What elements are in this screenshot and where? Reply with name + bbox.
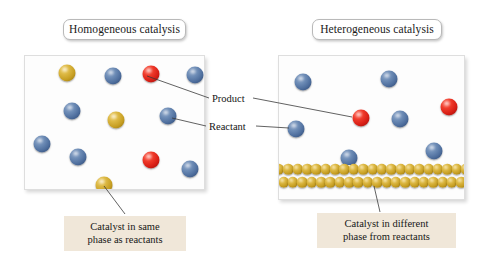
catalyst-row-top — [279, 165, 464, 183]
caption-homogeneous-line1: Catalyst in same — [71, 220, 179, 233]
caption-homogeneous: Catalyst in same phase as reactants — [64, 216, 186, 251]
reactant-sphere — [105, 68, 122, 85]
product-sphere — [441, 99, 458, 116]
reactant-sphere — [70, 149, 87, 166]
panel-title-heterogeneous: Heterogeneous catalysis — [312, 19, 442, 40]
reactant-sphere — [187, 67, 204, 84]
caption-heterogeneous-line2: phase from reactants — [324, 230, 449, 243]
reactant-sphere — [64, 103, 81, 120]
reactant-sphere — [381, 71, 398, 88]
leader-label-product: Product — [212, 94, 245, 105]
reactant-sphere — [426, 143, 443, 160]
catalyst-sphere — [96, 177, 113, 191]
reactant-sphere — [34, 136, 51, 153]
leader-line-undefined — [104, 186, 125, 214]
caption-homogeneous-line2: phase as reactants — [71, 233, 179, 246]
product-sphere — [143, 66, 160, 83]
catalyst-sphere — [108, 112, 125, 129]
reactant-sphere — [392, 111, 409, 128]
heterogeneous-reaction-box — [278, 55, 465, 200]
catalyst-sphere — [59, 65, 76, 82]
product-sphere — [353, 110, 370, 127]
figure-canvas: Homogeneous catalysis Heterogeneous cata… — [0, 0, 484, 263]
homogeneous-reaction-box — [24, 55, 205, 190]
caption-heterogeneous: Catalyst in different phase from reactan… — [317, 213, 456, 248]
catalyst-surface — [279, 165, 464, 199]
product-sphere — [143, 152, 160, 169]
panel-title-homogeneous: Homogeneous catalysis — [63, 19, 186, 40]
reactant-sphere — [288, 121, 305, 138]
reactant-sphere — [295, 74, 312, 91]
catalyst-atom — [461, 164, 465, 174]
caption-heterogeneous-line1: Catalyst in different — [324, 217, 449, 230]
leader-label-reactant: Reactant — [209, 122, 246, 133]
reactant-sphere — [160, 108, 177, 125]
reactant-sphere — [182, 161, 199, 178]
